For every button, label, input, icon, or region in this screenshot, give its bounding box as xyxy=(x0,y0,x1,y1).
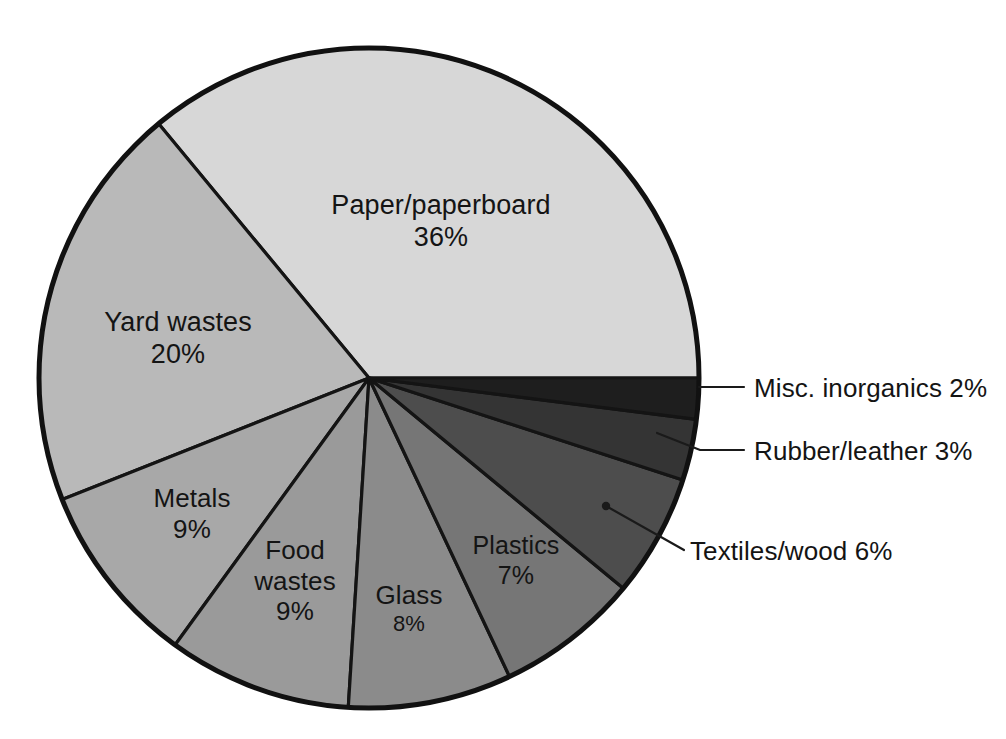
slice-label-plastics-name: Plastics xyxy=(473,531,560,561)
slice-label-glass-name: Glass xyxy=(376,580,443,611)
slice-label-yard-wastes-name: Yard wastes xyxy=(104,307,252,339)
slice-label-yard-wastes: Yard wastes 20% xyxy=(104,307,252,371)
slice-label-yard-wastes-value: 20% xyxy=(104,339,252,371)
slice-label-misc-inorganics: Misc. inorganics 2% xyxy=(754,374,987,403)
slice-label-paper-paperboard-value: 36% xyxy=(331,222,550,254)
slice-label-paper-paperboard-name: Paper/paperboard xyxy=(331,190,550,222)
slice-label-plastics-value: 7% xyxy=(473,561,560,591)
slice-label-food-wastes: Food wastes 9% xyxy=(254,535,336,627)
slice-label-glass-value: 8% xyxy=(376,611,443,637)
slice-label-rubber-leather: Rubber/leather 3% xyxy=(754,437,973,466)
slice-label-paper-paperboard: Paper/paperboard 36% xyxy=(331,190,550,254)
slice-label-metals-value: 9% xyxy=(153,514,230,545)
slice-label-food-wastes-name-line1: Food xyxy=(254,535,336,566)
slice-label-plastics: Plastics 7% xyxy=(473,531,560,590)
slice-label-metals-name: Metals xyxy=(153,483,230,514)
pie-slices-group xyxy=(39,48,699,708)
slice-label-food-wastes-value: 9% xyxy=(254,596,336,627)
slice-label-textiles-wood: Textiles/wood 6% xyxy=(690,537,892,566)
slice-label-glass: Glass 8% xyxy=(376,580,443,637)
pie-chart: Paper/paperboard 36% Yard wastes 20% Met… xyxy=(0,0,1006,739)
leader-dot-textiles-wood xyxy=(602,502,610,510)
slice-label-food-wastes-name-line2: wastes xyxy=(254,566,336,597)
slice-label-metals: Metals 9% xyxy=(153,483,230,544)
